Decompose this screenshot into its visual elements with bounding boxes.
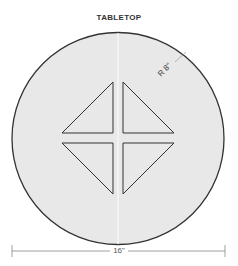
width-label: 16" xyxy=(110,246,128,255)
tabletop-drawing xyxy=(0,0,238,266)
